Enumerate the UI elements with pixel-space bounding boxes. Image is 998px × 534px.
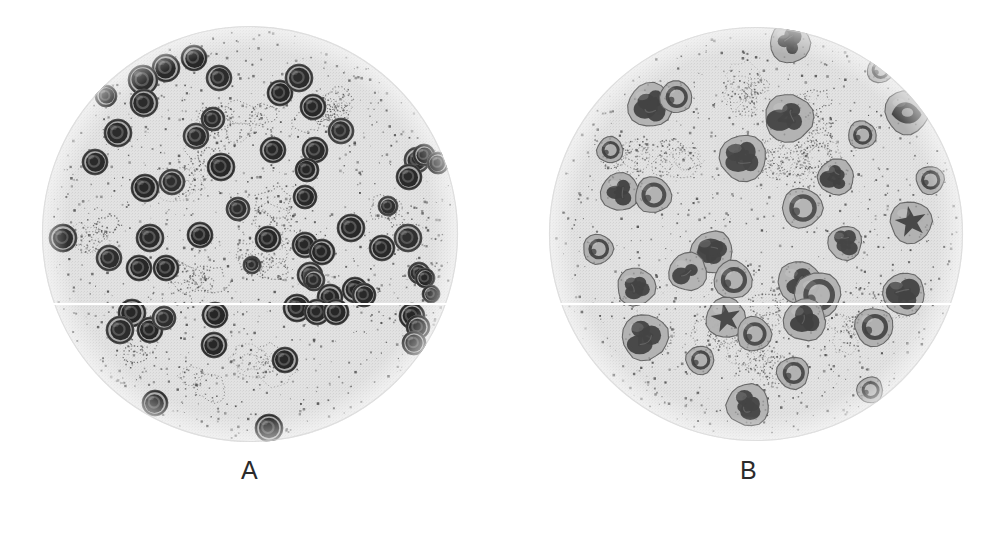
micrograph-a	[0, 0, 499, 470]
panel-label-b: B	[499, 455, 998, 485]
field-vignette	[42, 26, 458, 442]
figure-root: A B	[0, 0, 998, 534]
field-vignette	[549, 27, 963, 441]
micrograph-b	[499, 0, 998, 470]
micrograph-b-canvas	[499, 0, 998, 470]
panel-b: B	[499, 0, 998, 534]
panel-a: A	[0, 0, 499, 534]
panel-label-a: A	[0, 455, 499, 485]
micrograph-a-canvas	[0, 0, 499, 470]
